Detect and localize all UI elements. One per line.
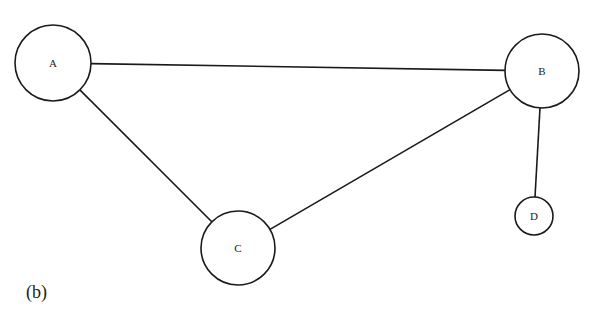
figure-caption: (b) <box>26 282 47 303</box>
graph-diagram: ABCD <box>0 0 597 324</box>
edge-a-b <box>91 64 505 71</box>
node-label: D <box>530 210 538 222</box>
node-label: C <box>234 242 241 254</box>
edge-a-c <box>80 90 212 222</box>
node-a: A <box>15 25 91 101</box>
edge-b-d <box>535 108 540 197</box>
node-label: B <box>538 65 545 77</box>
edge-c-b <box>270 90 510 230</box>
node-c: C <box>201 211 275 285</box>
node-d: D <box>515 197 553 235</box>
edges-group <box>80 64 540 230</box>
node-b: B <box>505 34 579 108</box>
node-label: A <box>49 57 57 69</box>
